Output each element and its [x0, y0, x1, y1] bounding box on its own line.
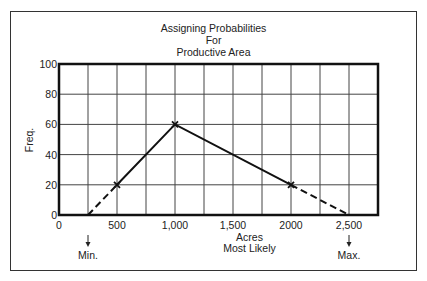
y-tick-label: 20 [45, 179, 57, 191]
y-tick-label: 40 [45, 149, 57, 161]
plot-border [59, 64, 378, 215]
x-tick-label: 1,500 [220, 219, 246, 231]
x-tick-label: 500 [108, 219, 126, 231]
series-line-extrapolated-low [88, 185, 117, 215]
x-axis-sublabel: Most Likely [223, 242, 276, 254]
y-axis-label: Freq. [23, 128, 35, 153]
annotation-max: Max. [338, 249, 361, 261]
x-tick-label: 2,500 [336, 219, 362, 231]
x-tick-label: 0 [56, 219, 62, 231]
arrow-head-icon [347, 242, 352, 247]
y-tick-label: 100 [39, 58, 57, 70]
x-tick-label: 2000 [279, 219, 303, 231]
arrow-head-icon [86, 242, 91, 247]
y-tick-label: 80 [45, 88, 57, 100]
chart-plot: 02040608010005001,0001,50020002,500Freq.… [0, 0, 427, 281]
y-tick-label: 60 [45, 118, 57, 130]
x-tick-label: 1,000 [162, 219, 188, 231]
annotation-min: Min. [78, 249, 98, 261]
